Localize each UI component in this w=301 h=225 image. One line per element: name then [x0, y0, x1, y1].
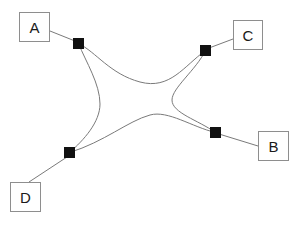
label-box-d[interactable]: D [10, 182, 41, 212]
diagram-canvas: A C B D [0, 0, 301, 225]
node-top-left[interactable] [73, 38, 84, 49]
label-box-a[interactable]: A [19, 12, 50, 42]
label-text-a: A [29, 19, 39, 34]
leader-line-a [50, 31, 75, 41]
label-box-c[interactable]: C [233, 20, 263, 50]
node-bottom-left[interactable] [64, 147, 75, 158]
label-text-c: C [242, 27, 253, 42]
leader-line-d [29, 157, 67, 182]
leader-line-b [219, 134, 258, 146]
label-box-b[interactable]: B [258, 131, 289, 161]
node-top-right[interactable] [200, 45, 211, 56]
central-star-curve [70, 44, 216, 153]
node-bottom-right[interactable] [210, 127, 221, 138]
label-text-d: D [20, 189, 31, 204]
leader-line-c [209, 39, 233, 48]
label-text-b: B [268, 138, 278, 153]
